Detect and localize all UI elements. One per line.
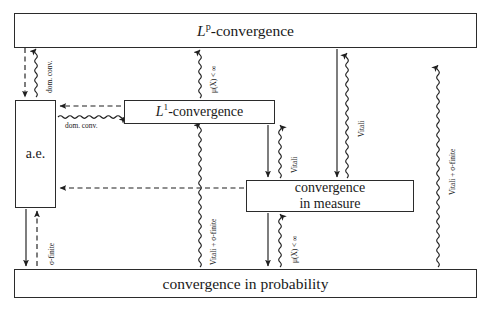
edge-prob-to-lp-squiggly [437, 65, 440, 267]
edge-label-mu-finite-top: μ(X) < ∞ [209, 66, 218, 93]
node-lp-label: Lp-convergence [197, 22, 294, 39]
edge-label-vitali-mid: Vitali [290, 157, 299, 173]
node-convergence-in-probability[interactable]: convergence in probability [14, 269, 477, 298]
edge-label-dom-conv-horizontal: dom. conv. [65, 121, 98, 130]
edge-label-vitali-right: Vitali [357, 121, 366, 137]
edge-label-dom-conv-vertical: dom. conv. [45, 60, 54, 93]
node-measure-label: convergence in measure [295, 180, 365, 211]
edge-ae-to-lp-squiggly [35, 49, 38, 97]
node-l1-label: L1-convergence [156, 104, 244, 120]
node-prob-label: convergence in probability [163, 275, 329, 292]
edge-label-mu-finite-bottom: μ(X) < ∞ [290, 236, 299, 263]
edge-measure-to-lp-squiggly [346, 53, 349, 178]
node-l1-convergence[interactable]: L1-convergence [124, 100, 275, 124]
edge-label-vitali-sigma-finite-right: Vitali + σ-finite [448, 149, 457, 195]
edge-measure-to-l1-squiggly [279, 125, 282, 178]
node-almost-everywhere[interactable]: a.e. [15, 100, 56, 208]
edge-prob-to-measure-squiggly [279, 214, 282, 267]
node-ae-label: a.e. [26, 146, 45, 162]
node-convergence-in-measure[interactable]: convergence in measure [246, 180, 414, 212]
edge-prob-to-l1-squiggly [199, 123, 202, 267]
edge-label-vitali-sigma-finite-left: Vitali + σ-finite [209, 219, 218, 265]
node-lp-convergence[interactable]: Lp-convergence [14, 13, 477, 48]
edge-l1-to-lp-squiggly [199, 50, 202, 98]
edge-label-sigma-finite: σ-finite [47, 243, 56, 265]
edge-ae-to-l1-squiggly [58, 116, 125, 119]
